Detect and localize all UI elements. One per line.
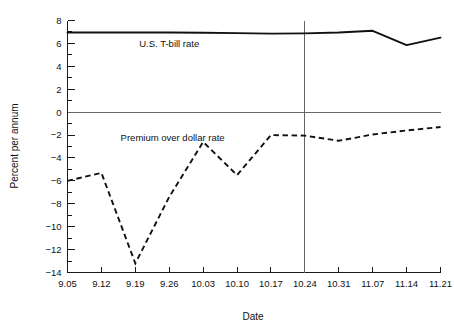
y-tick-label: −10: [45, 221, 61, 232]
y-tick-label: 0: [56, 107, 61, 118]
y-axis-group: −14−12−10−8−6−4−202468: [45, 15, 74, 278]
y-tick-label: 4: [56, 61, 61, 72]
x-tick-label: 10.31: [327, 278, 351, 289]
y-tick-label: −8: [51, 198, 62, 209]
x-tick-label: 11.21: [429, 278, 452, 289]
y-axis-title: Percent per annum: [9, 103, 20, 188]
series-line-tbill-rate: [68, 31, 441, 45]
y-tick-label: −6: [51, 175, 62, 186]
x-tick-label: 11.07: [361, 278, 384, 289]
y-tick-label: −2: [51, 129, 62, 140]
y-tick-label: 2: [56, 84, 61, 95]
y-axis-ticks: [68, 21, 75, 273]
x-axis-tick-labels: 9.059.129.199.2610.0310.1010.1710.2410.3…: [58, 278, 452, 289]
x-axis-group: 9.059.129.199.2610.0310.1010.1710.2410.3…: [58, 267, 452, 289]
y-tick-label: −12: [45, 244, 61, 255]
x-tick-label: 10.03: [191, 278, 215, 289]
x-tick-label: 9.26: [160, 278, 179, 289]
x-tick-label: 10.24: [293, 278, 317, 289]
x-axis-title: Date: [242, 311, 264, 322]
x-tick-label: 9.12: [92, 278, 111, 289]
y-tick-label: −4: [51, 152, 62, 163]
series-label-premium: Premium over dollar rate: [121, 132, 225, 143]
x-tick-label: 10.17: [259, 278, 283, 289]
y-axis-tick-labels: −14−12−10−8−6−4−202468: [45, 15, 61, 278]
x-tick-label: 11.14: [395, 278, 418, 289]
x-tick-label: 9.05: [58, 278, 77, 289]
x-axis-ticks: [68, 267, 441, 273]
chart-container: −14−12−10−8−6−4−202468 9.059.129.199.261…: [0, 0, 454, 325]
y-tick-label: 6: [56, 38, 61, 49]
x-tick-label: 9.19: [126, 278, 145, 289]
y-tick-label: −14: [45, 267, 61, 278]
series-line-premium: [68, 127, 441, 263]
x-tick-label: 10.10: [225, 278, 249, 289]
y-tick-label: 8: [56, 15, 61, 26]
series-label-tbill-rate: U.S. T-bill rate: [139, 38, 199, 49]
line-chart: −14−12−10−8−6−4−202468 9.059.129.199.261…: [0, 0, 454, 325]
